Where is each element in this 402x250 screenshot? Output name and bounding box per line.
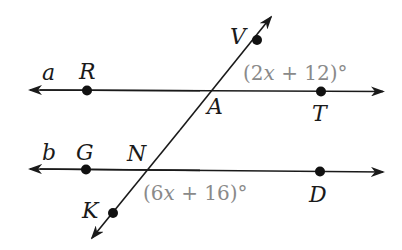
angle-label-2x-plus-12: (2x + 12)° [243,61,348,85]
point-V-label: V [230,24,248,49]
angle-bottom-open: (6 [143,181,164,205]
angle-label-6x-plus-16: (6x + 16)° [143,181,248,205]
point-D-dot [315,167,325,177]
point-D-label: D [308,182,327,207]
point-K-dot [108,208,118,218]
line-b-left-arrow [30,169,200,170]
angle-top-open: (2 [243,61,264,85]
point-G-dot [81,165,91,175]
point-G-label: G [76,140,94,165]
point-N-label: N [126,141,147,166]
parallel-lines-diagram: a b R T A V G N D K (2x + 12)° (6x + 16)… [0,0,402,250]
angle-top-rest: + 12)° [275,61,348,85]
angle-bottom-var: x [164,181,175,205]
point-K-label: K [81,198,100,223]
line-b-label: b [42,140,56,165]
point-T-dot [316,87,326,97]
angle-top-var: x [264,61,275,85]
point-R-dot [82,86,92,96]
point-A-label: A [205,94,223,119]
point-R-label: R [78,59,96,84]
point-T-label: T [312,101,329,126]
angle-bottom-rest: + 16)° [175,181,248,205]
line-a-label: a [42,60,55,85]
point-V-dot [252,35,262,45]
line-a-left-arrow [30,90,200,91]
